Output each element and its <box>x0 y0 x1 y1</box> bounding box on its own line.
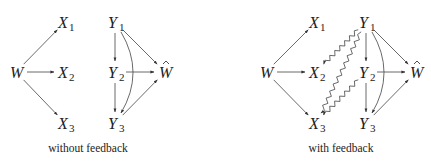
edge-w-to-x3 <box>24 80 58 115</box>
node-x3-subscript: 3 <box>69 122 75 134</box>
causal-diagram-figure: WX1X2X3Y1Y2Y3W without feedback WX1X2X3Y… <box>0 0 431 162</box>
caption-with-feedback: with feedback <box>309 142 374 154</box>
node-y3-subscript: 3 <box>119 122 125 134</box>
node-x2-subscript: 2 <box>69 71 75 83</box>
node-y3: Y <box>359 115 370 132</box>
node-y1-subscript: 1 <box>370 21 376 33</box>
edge-y1-to-x3 <box>321 32 361 113</box>
node-y2: Y <box>359 64 370 81</box>
node-x3: X <box>57 115 69 132</box>
nodes-with-feedback: WX1X2X3Y1Y2Y3W <box>260 14 425 134</box>
panel-with-feedback: WX1X2X3Y1Y2Y3W with feedback <box>260 14 425 154</box>
node-what: W <box>410 64 425 81</box>
edges-with-feedback <box>274 30 409 115</box>
node-x1-subscript: 1 <box>69 21 75 33</box>
nodes-without-feedback: WX1X2X3Y1Y2Y3W <box>10 14 174 134</box>
node-y3: Y <box>108 115 119 132</box>
node-y2-subscript: 2 <box>370 71 376 83</box>
node-x3: X <box>308 115 320 132</box>
caption-without-feedback: without feedback <box>48 142 128 154</box>
node-y3-subscript: 3 <box>370 122 376 134</box>
edges-without-feedback <box>24 30 158 115</box>
edge-y1-to-x2 <box>324 30 358 64</box>
edge-y3-to-what <box>374 80 409 115</box>
node-x2-subscript: 2 <box>320 71 326 83</box>
node-x2: X <box>308 64 320 81</box>
node-x3-subscript: 3 <box>320 122 326 134</box>
node-y2-subscript: 2 <box>119 71 125 83</box>
edge-w-to-x1 <box>24 30 58 64</box>
panel-without-feedback: WX1X2X3Y1Y2Y3W without feedback <box>10 14 174 154</box>
edge-w-to-x3 <box>274 80 309 115</box>
node-x1: X <box>57 14 69 31</box>
node-what: W <box>159 64 174 81</box>
node-y1: Y <box>359 14 370 31</box>
node-x1-subscript: 1 <box>320 21 326 33</box>
node-x2: X <box>57 64 69 81</box>
edge-y3-to-what <box>123 80 158 115</box>
node-w: W <box>260 64 275 81</box>
node-x1: X <box>308 14 320 31</box>
node-w: W <box>10 64 25 81</box>
node-y1: Y <box>108 14 119 31</box>
node-y2: Y <box>108 64 119 81</box>
node-y1-subscript: 1 <box>119 21 125 33</box>
edge-w-to-x1 <box>274 30 308 64</box>
